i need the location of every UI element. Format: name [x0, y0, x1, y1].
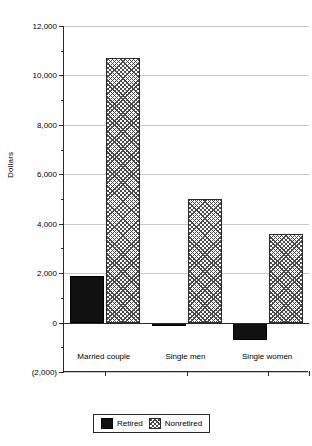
gridline: [64, 26, 309, 27]
y-axis-label: Dollars: [6, 108, 15, 178]
y-axis-tick: [59, 75, 64, 76]
bar-nonretired-single-men: [188, 199, 222, 323]
y-axis-tick-label: 2,000: [37, 269, 57, 278]
x-axis-tick-end: [309, 371, 310, 376]
legend-label-nonretired: Nonretired: [165, 419, 202, 428]
y-axis-tick-label: 0: [53, 318, 57, 327]
chart-legend: Retired Nonretired: [93, 414, 210, 433]
y-axis-tick: [59, 174, 64, 175]
bar-nonretired-married-couple: [106, 58, 140, 322]
y-axis-minor-tick: [61, 199, 64, 200]
x-axis-tick: [268, 371, 269, 376]
zero-baseline: [64, 323, 309, 324]
gridline: [64, 174, 309, 175]
legend-label-retired: Retired: [117, 419, 143, 428]
y-axis-tick-label: 6,000: [37, 170, 57, 179]
y-axis-minor-tick: [61, 248, 64, 249]
gridline: [64, 125, 309, 126]
legend-swatch-nonretired-icon: [149, 418, 161, 429]
y-axis-tick: [59, 125, 64, 126]
gridline: [64, 224, 309, 225]
legend-swatch-retired-icon: [101, 418, 113, 429]
y-axis-tick-label: 12,000: [33, 22, 57, 31]
bar-retired-single-women: [233, 323, 267, 340]
plot-area: (2,000)02,0004,0006,0008,00010,00012,000: [63, 26, 308, 372]
y-axis-minor-tick: [61, 347, 64, 348]
x-axis-tick: [187, 371, 188, 376]
legend-item-nonretired: Nonretired: [149, 418, 202, 429]
y-axis-tick-label: 10,000: [33, 71, 57, 80]
bar-nonretired-single-women: [269, 234, 303, 323]
x-axis-label-1: Single men: [165, 352, 205, 361]
y-axis-tick-label: 8,000: [37, 120, 57, 129]
y-axis-tick-label: 4,000: [37, 219, 57, 228]
bar-chart-figure: Dollars (2,000)02,0004,0006,0008,00010,0…: [0, 0, 312, 446]
bar-retired-married-couple: [70, 276, 104, 323]
x-axis-tick: [105, 371, 106, 376]
y-axis-minor-tick: [61, 150, 64, 151]
plot-inner: (2,000)02,0004,0006,0008,00010,00012,000: [64, 26, 308, 371]
x-axis-label-0: Married couple: [77, 352, 130, 361]
x-axis-label-2: Single women: [242, 352, 292, 361]
y-axis-minor-tick: [61, 100, 64, 101]
y-axis-tick-label: (2,000): [32, 368, 57, 377]
y-axis-tick: [59, 372, 64, 373]
y-axis-minor-tick: [61, 51, 64, 52]
gridline: [64, 75, 309, 76]
y-axis-tick: [59, 26, 64, 27]
y-axis-minor-tick: [61, 298, 64, 299]
y-axis-tick: [59, 224, 64, 225]
legend-item-retired: Retired: [101, 418, 143, 429]
y-axis-tick: [59, 273, 64, 274]
